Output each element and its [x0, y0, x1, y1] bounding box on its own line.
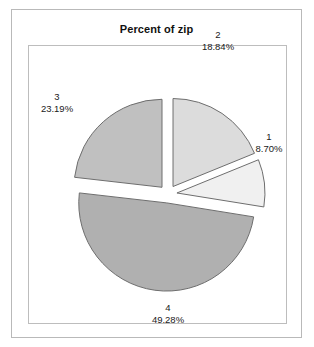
- chart-title: Percent of zip: [12, 23, 301, 35]
- pie-label-1: 1 8.70%: [243, 131, 295, 154]
- pie-label-2-percent: 18.84%: [183, 41, 253, 53]
- pie-label-3: 3 23.19%: [26, 91, 88, 114]
- pie-label-4-name: 4: [133, 302, 203, 314]
- pie-label-3-name: 3: [26, 91, 88, 103]
- chart-card-frame: Percent of zip 2 18.84% 1 8.70% 3 23.19%…: [11, 9, 302, 338]
- pie-label-4-percent: 49.28%: [133, 314, 203, 326]
- pie-slice-4[interactable]: [79, 193, 254, 291]
- plot-area: 2 18.84% 1 8.70% 3 23.19% 4 49.28%: [28, 45, 287, 324]
- chart-window: Percent of zip 2 18.84% 1 8.70% 3 23.19%…: [0, 0, 314, 347]
- pie-label-2: 2 18.84%: [183, 29, 253, 52]
- pie-label-4: 4 49.28%: [133, 302, 203, 325]
- pie-label-3-percent: 23.19%: [26, 103, 88, 115]
- pie-label-1-name: 1: [243, 131, 295, 143]
- pie-chart-svg: [29, 46, 286, 323]
- pie-label-1-percent: 8.70%: [243, 143, 295, 155]
- pie-label-2-name: 2: [183, 29, 253, 41]
